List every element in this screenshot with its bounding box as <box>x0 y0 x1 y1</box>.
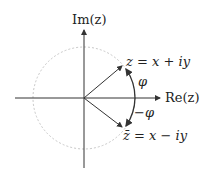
phi-arc <box>126 69 135 98</box>
z-label: z = x + iy <box>126 55 190 68</box>
z-vector <box>84 66 122 98</box>
imaginary-axis-label: Im(z) <box>72 13 106 26</box>
phi-label: φ <box>138 75 147 88</box>
real-axis-label: Re(z) <box>165 91 199 104</box>
zbar-label: z̄ = x − iy <box>123 129 187 142</box>
neg-phi-label: −φ <box>134 106 154 119</box>
zbar-vector <box>84 98 122 127</box>
